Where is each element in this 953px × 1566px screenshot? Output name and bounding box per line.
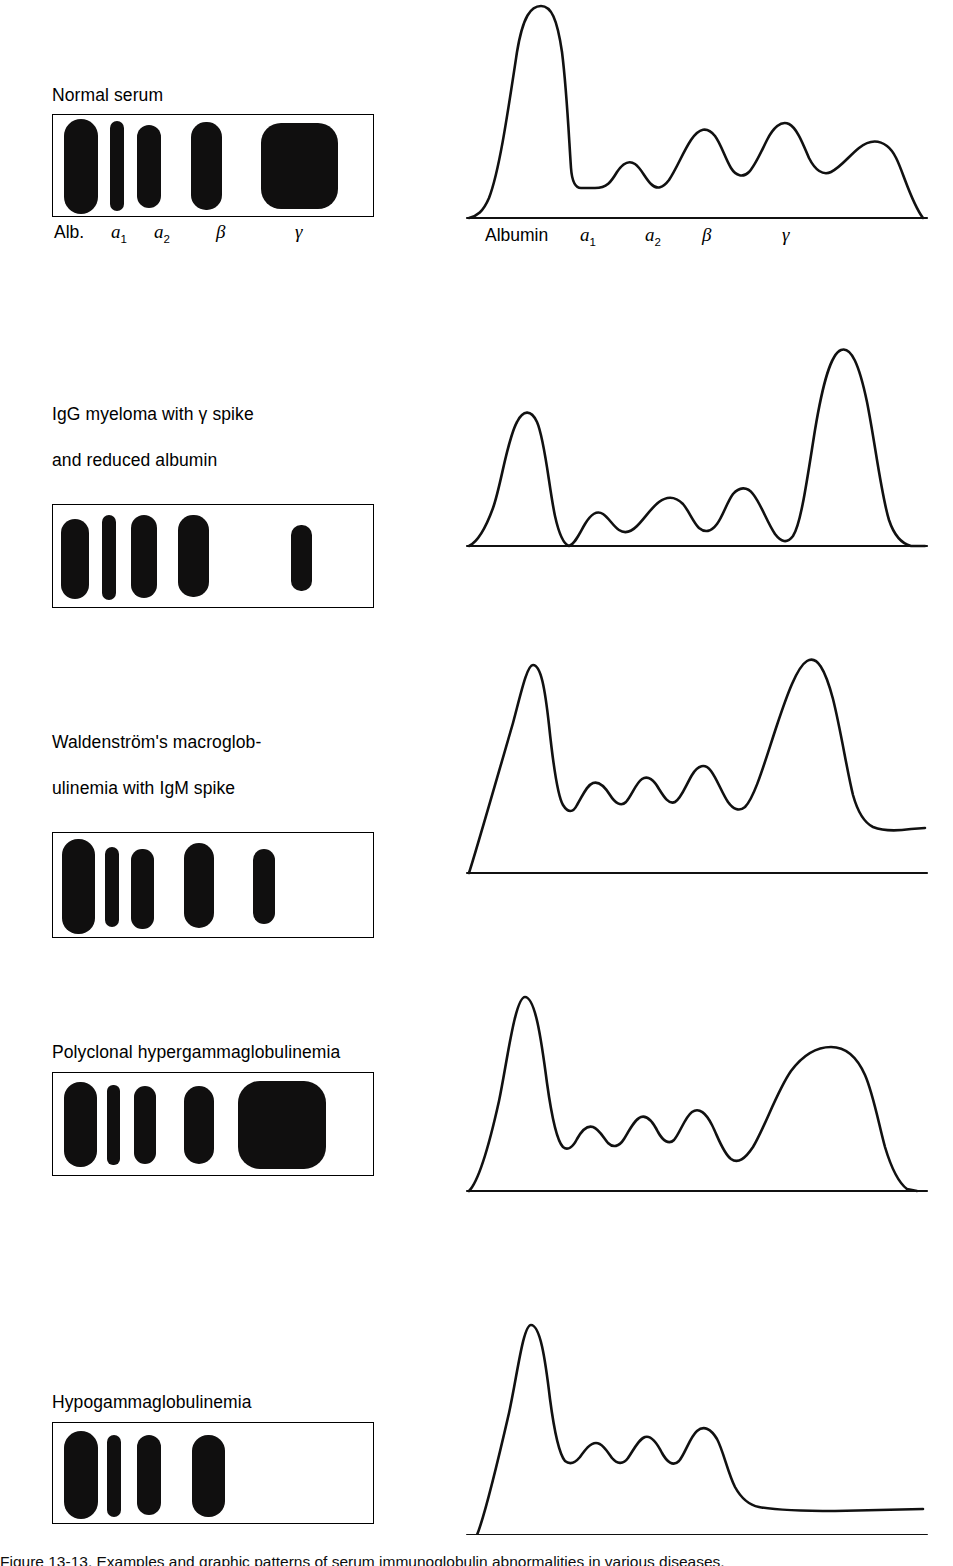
trace-block-waldenstrom [455, 645, 935, 880]
gel-band-alpha1 [105, 847, 119, 927]
gel-band-alpha2 [137, 125, 161, 208]
gel-band-albumin [64, 1082, 97, 1167]
trace-block-polyclonal-hypergamma [455, 975, 935, 1197]
trace-block-hypogamma [455, 1295, 935, 1535]
trace-block-igg-myeloma [455, 330, 935, 552]
gel-band-albumin [64, 119, 98, 214]
gel-axis-labels: Alb. a1 a2 β γ [52, 221, 374, 247]
trace-curve-hypogamma [455, 1295, 935, 1535]
gel-band-albumin [62, 839, 95, 934]
electrophoresis-figure: Normal serum Alb. a1 a2 β γ A [0, 0, 953, 1566]
gel-block-normal-serum: Normal serum Alb. a1 a2 β γ [52, 84, 374, 247]
figure-caption: Figure 13-13. Examples and graphic patte… [0, 1552, 953, 1566]
panel-row-waldenstrom: Waldenström's macroglob- ulinemia with I… [0, 645, 953, 895]
gel-band-gamma [238, 1081, 326, 1169]
gel-axis-label-gamma: γ [295, 221, 303, 243]
gel-block-waldenstrom: Waldenström's macroglob- ulinemia with I… [52, 708, 374, 938]
trace-curve-igg-myeloma [455, 330, 935, 552]
trace-axis-label-gamma: γ [782, 224, 790, 246]
trace-block-normal-serum: Albumin a1 a2 β γ [455, 0, 935, 250]
gel-band-beta [184, 843, 214, 928]
gel-band-beta [192, 1435, 225, 1517]
panel-row-igg-myeloma: IgG myeloma with γ spike and reduced alb… [0, 330, 953, 580]
gel-band-alpha1 [110, 121, 124, 211]
gel-band-gamma [261, 123, 338, 209]
gel-band-beta [178, 515, 209, 597]
gel-band-alpha2 [131, 515, 157, 598]
trace-axis-label-alpha2: a2 [645, 224, 661, 253]
gel-band-gamma [253, 849, 275, 924]
gel-label-hypogamma: Hypogammaglobulinemia [52, 1391, 374, 1414]
gel-box-igg-myeloma [52, 504, 374, 608]
gel-label-line-2: and reduced albumin [52, 449, 374, 472]
trace-axis-label-alpha1: a1 [580, 224, 596, 253]
gel-box-waldenstrom [52, 832, 374, 938]
gel-band-alpha1 [107, 1435, 121, 1517]
gel-box-hypogamma [52, 1422, 374, 1524]
gel-axis-label-alb: Alb. [54, 221, 84, 243]
gel-box-polyclonal-hypergamma [52, 1072, 374, 1176]
gel-block-igg-myeloma: IgG myeloma with γ spike and reduced alb… [52, 380, 374, 608]
panel-row-polyclonal-hypergamma: Polyclonal hypergammaglobulinemia [0, 975, 953, 1225]
gel-label-line-1: Waldenström's macroglob- [52, 731, 374, 754]
gel-block-hypogamma: Hypogammaglobulinemia [52, 1391, 374, 1524]
trace-curve-waldenstrom [455, 645, 935, 880]
gel-label-igg-myeloma: IgG myeloma with γ spike and reduced alb… [52, 380, 374, 495]
gel-axis-label-alpha2: a2 [154, 221, 170, 250]
trace-axis-label-albumin: Albumin [485, 224, 548, 246]
gel-band-alpha1 [107, 1085, 120, 1165]
gel-band-alpha2 [131, 849, 154, 929]
gel-axis-label-beta: β [216, 221, 225, 243]
gel-label-line-1: IgG myeloma with γ spike [52, 403, 374, 426]
gel-label-normal-serum: Normal serum [52, 84, 374, 107]
gel-band-alpha2 [134, 1086, 156, 1164]
trace-axis-labels-normal-serum: Albumin a1 a2 β γ [455, 224, 935, 250]
gel-band-albumin [64, 1431, 98, 1519]
gel-block-polyclonal-hypergamma: Polyclonal hypergammaglobulinemia [52, 1041, 374, 1176]
panel-row-hypogamma: Hypogammaglobulinemia [0, 1295, 953, 1566]
trace-axis-label-beta: β [702, 224, 711, 246]
gel-box-normal-serum [52, 114, 374, 217]
trace-curve-polyclonal-hypergamma [455, 975, 935, 1197]
gel-label-waldenstrom: Waldenström's macroglob- ulinemia with I… [52, 708, 374, 823]
gel-label-polyclonal-hypergamma: Polyclonal hypergammaglobulinemia [52, 1041, 374, 1064]
gel-band-gamma [291, 525, 312, 591]
gel-axis-label-alpha1: a1 [111, 221, 127, 250]
gel-band-alpha2 [137, 1435, 161, 1515]
gel-label-line-2: ulinemia with IgM spike [52, 777, 374, 800]
panel-row-normal-serum: Normal serum Alb. a1 a2 β γ A [0, 0, 953, 300]
gel-band-alpha1 [102, 515, 116, 600]
gel-band-beta [184, 1086, 214, 1164]
trace-curve-normal-serum [455, 0, 935, 222]
gel-band-albumin [61, 519, 89, 599]
gel-band-beta [191, 122, 222, 210]
